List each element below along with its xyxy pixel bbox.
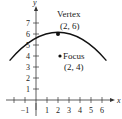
parabola-curve: [10, 32, 107, 60]
x-axis-label: x: [116, 96, 121, 105]
y-tick-label: 2: [26, 74, 30, 83]
y-tick-label: 4: [26, 52, 30, 61]
y-tick-label: 6: [26, 30, 30, 39]
x-tick-label: 3: [67, 106, 71, 115]
y-tick-labels: 1 2 3 4 5 6 7: [26, 19, 30, 94]
vertex-label: Vertex: [57, 9, 81, 19]
x-axis-arrow-icon: [110, 98, 115, 102]
parabola-chart: −1 1 2 3 4 5 6 1 2 3 4 5 6 7 x y Vertex …: [0, 0, 122, 119]
vertex-point: [56, 32, 60, 36]
y-axis-label: y: [32, 0, 37, 7]
vertex-coords: (2, 6): [60, 21, 80, 31]
x-tick-label: 6: [100, 106, 104, 115]
y-tick-label: 7: [26, 19, 30, 28]
y-tick-label: 3: [26, 63, 30, 72]
focus-coords: (2, 4): [64, 62, 84, 72]
y-tick-label: 1: [26, 85, 30, 94]
x-tick-label: 5: [89, 106, 93, 115]
focus-label: Focus: [63, 51, 85, 61]
x-tick-label: 2: [56, 106, 60, 115]
x-tick-label: 4: [78, 106, 82, 115]
focus-point: [58, 54, 61, 57]
x-tick-labels: −1 1 2 3 4 5 6: [21, 106, 104, 115]
x-tick-label: 1: [45, 106, 49, 115]
x-tick-label: −1: [21, 106, 30, 115]
